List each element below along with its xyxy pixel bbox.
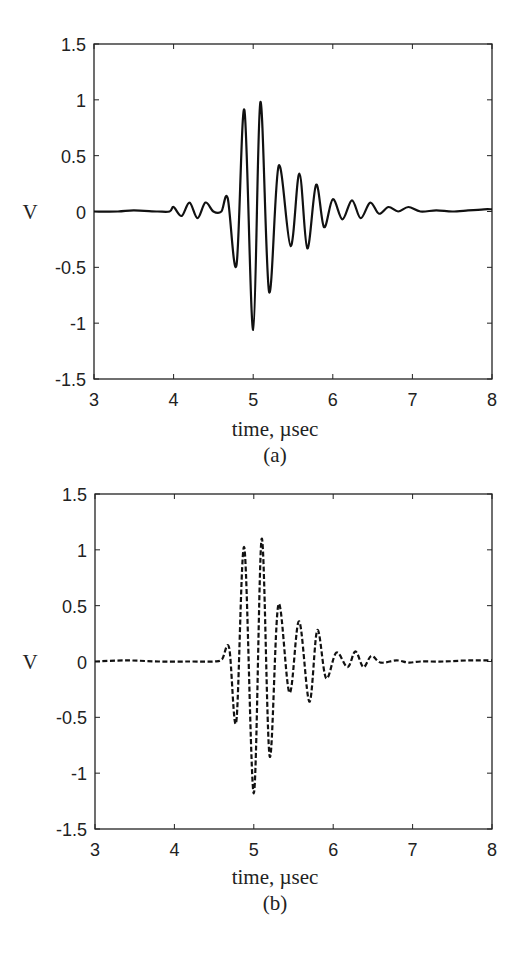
y-tick-label: -0.5 [56, 708, 87, 728]
x-tick-label: 8 [487, 390, 497, 410]
y-tick-label: 0.5 [61, 147, 86, 167]
y-tick-label: 1.5 [61, 35, 86, 55]
y-tick-label: 1 [76, 91, 86, 111]
x-axis-label: time, µsec [232, 865, 319, 889]
x-tick-label: 5 [248, 390, 258, 410]
x-tick-label: 7 [408, 840, 418, 860]
x-tick-label: 4 [169, 840, 179, 860]
waveform-line [95, 539, 492, 794]
x-tick-label: 4 [169, 390, 179, 410]
x-tick-label: 3 [89, 390, 99, 410]
y-axis-label: V [22, 650, 37, 674]
panel-label: (b) [263, 891, 288, 915]
x-tick-label: 5 [249, 840, 259, 860]
chart-b-svg: 3456781.510.50-0.5-1-1.5 V time, µsec (b… [0, 450, 527, 930]
plot-area: 3456781.510.50-0.5-1-1.5 [56, 485, 497, 860]
y-tick-label: 1 [77, 541, 87, 561]
chart-a-svg: 3456781.510.50-0.5-1-1.5 V time, µsec (a… [0, 0, 527, 480]
plot-area: 3456781.510.50-0.5-1-1.5 [55, 35, 497, 410]
chart-panel-a: 3456781.510.50-0.5-1-1.5 V time, µsec (a… [0, 0, 527, 480]
x-tick-label: 6 [328, 840, 338, 860]
waveform-line [94, 102, 492, 330]
y-tick-label: -0.5 [55, 258, 86, 278]
y-tick-label: 0 [77, 653, 87, 673]
y-tick-label: 0.5 [62, 597, 87, 617]
x-axis-label: time, µsec [232, 417, 319, 441]
y-tick-label: -1 [71, 764, 87, 784]
y-axis-label: V [22, 200, 37, 224]
y-tick-label: -1 [70, 314, 86, 334]
chart-panel-b: 3456781.510.50-0.5-1-1.5 V time, µsec (b… [0, 450, 527, 930]
x-tick-label: 3 [90, 840, 100, 860]
x-tick-label: 6 [328, 390, 338, 410]
x-tick-label: 7 [407, 390, 417, 410]
y-tick-label: 1.5 [62, 485, 87, 505]
x-tick-label: 8 [487, 840, 497, 860]
y-tick-label: 0 [76, 203, 86, 223]
y-tick-label: -1.5 [56, 820, 87, 840]
y-tick-label: -1.5 [55, 370, 86, 390]
